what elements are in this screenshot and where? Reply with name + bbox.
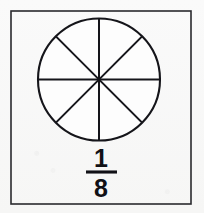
fraction-denominator: 8 [94, 174, 108, 202]
fraction-circle-figure: 1 8 [0, 0, 204, 213]
fraction-numerator: 1 [94, 144, 108, 172]
fraction-label: 1 8 [86, 144, 117, 202]
pie-diagram [38, 19, 160, 141]
figure-page: 1 8 [0, 0, 204, 213]
